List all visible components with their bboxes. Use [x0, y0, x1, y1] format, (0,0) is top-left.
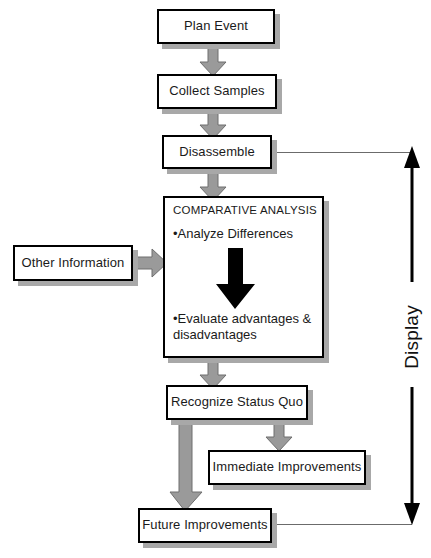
node-other-information[interactable]: Other Information	[13, 245, 133, 281]
node-future-improvements[interactable]: Future Improvements	[138, 508, 272, 543]
comparative-analysis-bullet-2: •Evaluate advantages & disadvantages	[173, 311, 323, 344]
connector-line-future	[272, 524, 412, 525]
analysis-internal-down-arrow	[215, 248, 257, 310]
node-collect-samples-label: Collect Samples	[169, 84, 264, 99]
comparative-analysis-title: COMPARATIVE ANALYSIS	[173, 204, 317, 216]
arrow-plan-to-collect	[199, 41, 227, 77]
flowchart-canvas: Display Plan Event Collect Samples Disas…	[0, 0, 431, 558]
arrow-recognize-to-immediate	[265, 419, 293, 452]
node-immediate-improvements-label: Immediate Improvements	[213, 460, 362, 475]
node-disassemble-label: Disassemble	[179, 145, 255, 160]
node-other-information-label: Other Information	[22, 256, 125, 271]
node-disassemble[interactable]: Disassemble	[162, 135, 272, 169]
node-recognize-status-quo-label: Recognize Status Quo	[171, 395, 303, 410]
node-future-improvements-label: Future Improvements	[142, 518, 267, 533]
connector-line-disassemble	[272, 152, 412, 153]
comparative-analysis-bullet-1: •Analyze Differences	[173, 226, 293, 241]
node-immediate-improvements[interactable]: Immediate Improvements	[208, 450, 366, 485]
display-label: Display	[401, 299, 423, 375]
node-comparative-analysis[interactable]: COMPARATIVE ANALYSIS •Analyze Difference…	[163, 196, 324, 358]
arrow-recognize-to-future	[168, 419, 204, 512]
node-plan-event-label: Plan Event	[184, 19, 248, 34]
node-plan-event[interactable]: Plan Event	[157, 9, 275, 44]
node-collect-samples[interactable]: Collect Samples	[157, 74, 277, 109]
node-recognize-status-quo[interactable]: Recognize Status Quo	[166, 385, 308, 420]
